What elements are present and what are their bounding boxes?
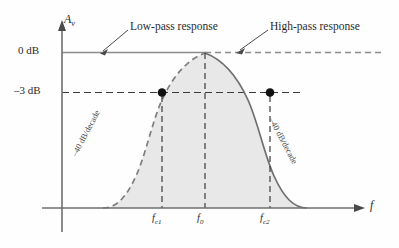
high-pass-callout-leader xyxy=(240,30,268,50)
high-pass-callout-arrowhead xyxy=(236,48,245,55)
low-pass-response-callout: Low-pass response xyxy=(130,20,218,32)
x-tick-f0: f0 xyxy=(197,212,203,226)
high-pass-response-callout: High-pass response xyxy=(270,20,360,32)
x-axis-label: f xyxy=(370,198,373,213)
fc1-marker-dot xyxy=(158,88,167,97)
y-tick-minus3db: –3 dB xyxy=(14,84,41,96)
y-axis-label: Av xyxy=(64,12,75,28)
x-tick-fc2: fc2 xyxy=(260,212,270,226)
response-plot-svg xyxy=(0,0,399,248)
x-axis-arrowhead xyxy=(354,204,365,212)
bandpass-response-figure: Av f 0 dB –3 dB fc1 f0 fc2 Low-pass resp… xyxy=(0,0,399,248)
y-tick-0db: 0 dB xyxy=(18,44,39,56)
fc2-marker-dot xyxy=(266,88,275,97)
x-tick-fc1: fc1 xyxy=(152,212,162,226)
low-pass-callout-leader xyxy=(103,30,128,51)
